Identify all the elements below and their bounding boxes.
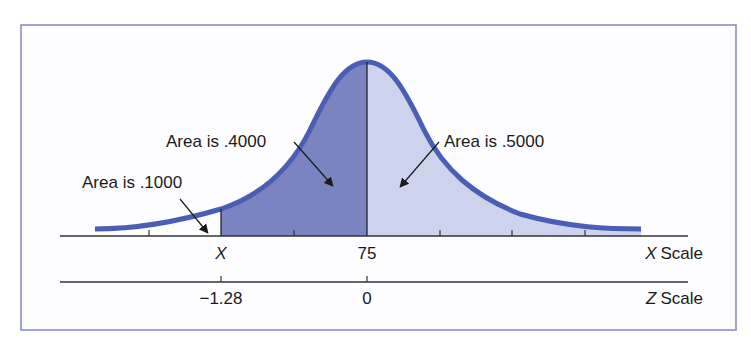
x-value-label: X: [214, 244, 227, 263]
area-mid-label: Area is .4000: [166, 132, 266, 151]
mean-value-label: 75: [358, 244, 377, 263]
z-scale-word: Scale: [660, 289, 703, 308]
area-low-label: Area is .1000: [82, 173, 182, 192]
normal-distribution-figure: Area is .1000 Area is .4000 Area is .500…: [0, 0, 751, 342]
z-left-label: −1.28: [199, 289, 242, 308]
x-scale-word: Scale: [660, 244, 703, 263]
x-scale-var: X: [644, 244, 657, 263]
z-scale-title: ZScale: [645, 289, 703, 308]
z-scale-var: Z: [645, 289, 657, 308]
z-zero-label: 0: [362, 289, 371, 308]
area-high-label: Area is .5000: [444, 132, 544, 151]
x-scale-title: XScale: [644, 244, 703, 263]
